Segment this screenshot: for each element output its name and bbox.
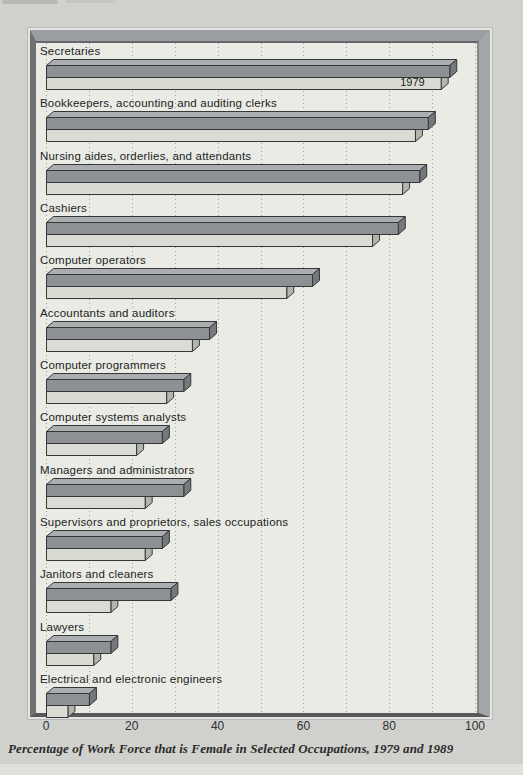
bar-group-6: Accountants and auditors: [36, 307, 475, 355]
category-label: Computer systems analysts: [40, 411, 186, 423]
x-tick-0: 0: [43, 719, 50, 733]
plot-area: Secretaries1979Bookkeepers, accounting a…: [36, 41, 479, 713]
page-bottom-strip: [0, 764, 523, 775]
bar-1989-8: [46, 425, 171, 445]
bar-group-3: Nursing aides, orderlies, and attendants: [36, 150, 475, 198]
chart-caption: Percentage of Work Force that is Female …: [8, 741, 516, 757]
bar-1989-10: [46, 530, 171, 550]
bar-1989-6: [46, 321, 219, 341]
category-label: Accountants and auditors: [40, 307, 175, 319]
category-label: Supervisors and proprietors, sales occup…: [40, 516, 288, 528]
category-label: Secretaries: [40, 45, 100, 57]
chart-panel-frame: Secretaries1979Bookkeepers, accounting a…: [30, 30, 490, 717]
bar-1989-12: [46, 635, 120, 655]
bar-group-2: Bookkeepers, accounting and auditing cle…: [36, 97, 475, 145]
x-tick-60: 60: [297, 719, 310, 733]
gridline-100: [475, 43, 476, 713]
bar-group-13: Electrical and electronic engineers: [36, 673, 475, 721]
category-label: Janitors and cleaners: [40, 568, 154, 580]
in-bar-series-label: 1979: [381, 76, 425, 89]
bar-1989-7: [46, 373, 193, 393]
x-tick-40: 40: [211, 719, 224, 733]
bar-group-4: Cashiers: [36, 202, 475, 250]
bar-group-9: Managers and administrators: [36, 464, 475, 512]
bar-group-12: Lawyers: [36, 621, 475, 669]
page: Secretaries1979Bookkeepers, accounting a…: [0, 0, 523, 775]
page-edge-artifact: [66, 0, 116, 3]
category-label: Computer operators: [40, 254, 146, 266]
page-edge-artifact: [2, 0, 58, 4]
bar-group-7: Computer programmers: [36, 359, 475, 407]
category-label: Managers and administrators: [40, 464, 194, 476]
bar-group-11: Janitors and cleaners: [36, 568, 475, 616]
category-label: Nursing aides, orderlies, and attendants: [40, 150, 251, 162]
bar-1989-11: [46, 582, 180, 602]
bar-group-5: Computer operators: [36, 254, 475, 302]
bar-1989-9: [46, 478, 193, 498]
bar-group-8: Computer systems analysts: [36, 411, 475, 459]
bar-1989-2: [46, 111, 437, 131]
x-tick-80: 80: [383, 719, 396, 733]
bar-1989-13: [46, 687, 98, 707]
bar-1989-5: [46, 268, 321, 288]
bar-group-1: Secretaries1979: [36, 45, 475, 93]
bar-1989-4: [46, 216, 407, 236]
category-label: Bookkeepers, accounting and auditing cle…: [40, 97, 277, 109]
x-tick-20: 20: [125, 719, 138, 733]
x-tick-100: 100: [465, 719, 485, 733]
category-label: Cashiers: [40, 202, 87, 214]
category-label: Computer programmers: [40, 359, 166, 371]
bar-1989-3: [46, 164, 429, 184]
category-label: Lawyers: [40, 621, 84, 633]
category-label: Electrical and electronic engineers: [40, 673, 222, 685]
bar-group-10: Supervisors and proprietors, sales occup…: [36, 516, 475, 564]
